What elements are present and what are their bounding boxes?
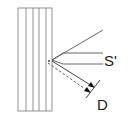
arrowhead-dashed	[84, 87, 91, 93]
striped-block	[18, 8, 52, 111]
origin-point	[48, 60, 50, 62]
incident-rays	[52, 30, 103, 64]
reflected-arrow	[48, 61, 100, 98]
label-d: D	[97, 97, 108, 112]
label-s-prime: S'	[104, 53, 117, 68]
